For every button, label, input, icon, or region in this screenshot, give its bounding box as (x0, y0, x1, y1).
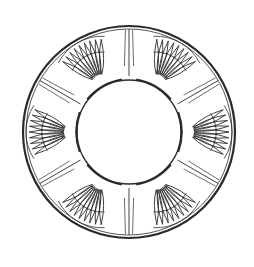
ornament-layer (23, 26, 235, 238)
fan-divider-line (124, 198, 125, 234)
fan-divider-line (177, 81, 218, 105)
fan-base-cup (87, 80, 121, 100)
fan-divider-line (133, 198, 134, 234)
fan-divider-line (42, 169, 74, 186)
fan-divider-line (188, 84, 219, 103)
fan-base-cup (136, 165, 170, 185)
fan-divider-line (40, 81, 81, 105)
fan-base-cup-outer (87, 165, 121, 185)
fan-base-cup (87, 165, 121, 185)
fan-divider-line (188, 161, 219, 180)
fan-divider-line (42, 78, 74, 95)
fan-divider-line (177, 160, 218, 184)
fan-divider-line (184, 169, 216, 186)
inner-circle (77, 80, 181, 184)
fan-divider-line (39, 161, 70, 180)
fan-divider-line (124, 30, 125, 66)
fan-base-cup-outer (136, 165, 170, 185)
fan-divider-line (39, 84, 70, 103)
fan-divider-line (40, 160, 81, 184)
ring-mandala-illustration (0, 0, 254, 267)
fan-divider-line (184, 78, 216, 95)
fan-base-cup-outer (87, 80, 121, 100)
fan-divider-line (133, 30, 134, 66)
fan-base-cup-outer (136, 80, 170, 100)
fan-base-cup (136, 80, 170, 100)
